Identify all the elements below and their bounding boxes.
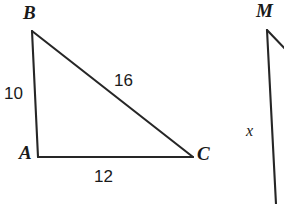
vertex-label-b: B xyxy=(23,3,36,22)
side-length-bc: 16 xyxy=(114,72,133,89)
vertex-label-c: C xyxy=(197,144,210,163)
side-length-x: x xyxy=(246,123,253,139)
triangle-abc-group xyxy=(32,31,193,157)
geometry-figure-svg xyxy=(0,0,284,204)
segment-ab xyxy=(32,31,38,157)
side-length-ac: 12 xyxy=(94,168,113,185)
figure-m-group xyxy=(267,30,284,204)
vertex-label-a: A xyxy=(19,143,32,162)
segment-m-long xyxy=(267,30,276,204)
diagram-canvas: B A C M 10 16 12 x xyxy=(0,0,284,204)
segment-m-short xyxy=(267,30,284,52)
segment-bc xyxy=(32,31,193,157)
vertex-label-m: M xyxy=(256,1,273,20)
side-length-ab: 10 xyxy=(4,85,23,102)
